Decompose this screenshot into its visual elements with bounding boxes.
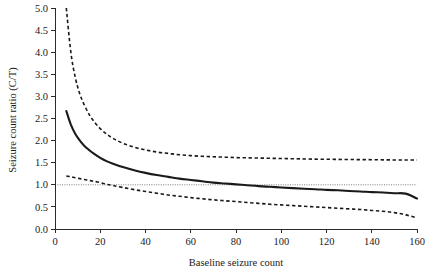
y-tick-label: 1.5	[35, 157, 48, 168]
y-tick-label: 5.0	[35, 3, 48, 14]
y-tick-label: 0.5	[35, 202, 48, 213]
y-tick-label: 2.5	[35, 113, 48, 124]
y-tick-label: 4.5	[35, 25, 48, 36]
y-axis-title: Seizure count ratio (C/T)	[7, 67, 19, 173]
x-tick-label: 120	[319, 236, 335, 247]
seizure-count-ratio-chart: 0204060801001201401600.00.51.01.52.02.53…	[0, 0, 433, 275]
y-tick-label: 4.0	[35, 47, 48, 58]
x-axis-title: Baseline seizure count	[189, 257, 284, 268]
y-tick-label: 0.0	[35, 224, 48, 235]
y-tick-label: 1.0	[35, 179, 48, 190]
plot-background	[0, 0, 433, 275]
x-tick-label: 80	[231, 236, 242, 247]
figure-container: 0204060801001201401600.00.51.01.52.02.53…	[0, 0, 433, 275]
x-tick-label: 60	[186, 236, 197, 247]
x-tick-label: 100	[273, 236, 289, 247]
y-tick-label: 2.0	[35, 135, 48, 146]
x-tick-label: 140	[364, 236, 380, 247]
x-tick-label: 40	[140, 236, 151, 247]
x-tick-label: 0	[52, 236, 57, 247]
x-tick-label: 160	[409, 236, 425, 247]
x-tick-label: 20	[95, 236, 106, 247]
y-tick-label: 3.0	[35, 91, 48, 102]
y-tick-label: 3.5	[35, 69, 48, 80]
